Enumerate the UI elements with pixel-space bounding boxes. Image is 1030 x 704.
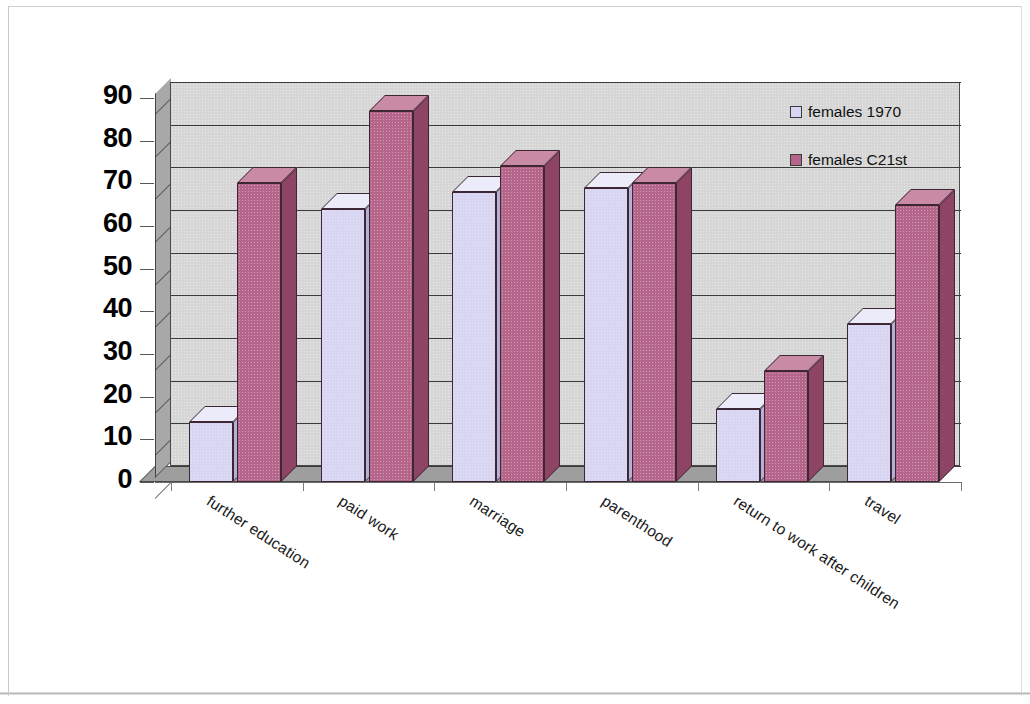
gridline [171, 82, 961, 83]
scan-grain [501, 167, 543, 481]
bar-females-c21st-travel[interactable] [895, 205, 939, 482]
bar-side-face [676, 167, 692, 482]
bar-females-c21st-return-to-work-after-children[interactable] [764, 371, 808, 482]
x-axis-tick-mark [698, 482, 699, 491]
scan-grain [238, 184, 280, 481]
bar-females-1970-travel[interactable] [847, 324, 891, 482]
bar-females-c21st-marriage[interactable] [500, 166, 544, 482]
x-axis-tick-mark [829, 482, 830, 491]
x-axis-tick-mark [303, 482, 304, 491]
scan-grain [848, 325, 890, 481]
y-tick-value: 90 [76, 82, 132, 109]
bar-females-1970-paid-work[interactable] [321, 209, 365, 482]
legend-item-females-1970[interactable]: females 1970 [790, 103, 901, 121]
x-axis-tick-mark [434, 482, 435, 491]
y-axis-tick-mark [140, 482, 154, 483]
x-axis-tick-mark [566, 482, 567, 491]
bar-females-c21st-paid-work[interactable] [369, 111, 413, 482]
bar-females-c21st-parenthood[interactable] [632, 183, 676, 482]
bar-females-1970-further-education[interactable] [189, 422, 233, 482]
legend-label: females C21st [808, 151, 907, 169]
x-axis-label-paid-work: paid work [335, 492, 402, 544]
bar-side-face [281, 167, 297, 482]
bar-females-1970-return-to-work-after-children[interactable] [716, 409, 760, 482]
y-axis-tick-mark [140, 311, 154, 312]
scan-grain [765, 372, 807, 481]
scan-grain [322, 210, 364, 481]
scanned-page: 9080706050403020100 further educationpai… [0, 0, 1030, 704]
x-axis-label-marriage: marriage [467, 492, 529, 541]
scan-grain [896, 206, 938, 481]
scan-grain [190, 423, 232, 481]
x-axis-tick-mark [171, 482, 172, 491]
scan-grain [633, 184, 675, 481]
x-axis-line [155, 482, 961, 483]
bar-side-face [544, 150, 560, 482]
y-axis-tick-mark [140, 183, 154, 184]
gridline [171, 125, 961, 126]
bar-chart: 9080706050403020100 further educationpai… [0, 0, 1030, 704]
y-axis-tick-mark [140, 98, 154, 99]
bar-side-face [939, 189, 955, 482]
bar-side-face [808, 355, 824, 482]
gridline-depth-connector [155, 482, 171, 499]
legend-swatch-icon [790, 154, 802, 166]
y-tick-value: 10 [76, 423, 132, 450]
y-tick-value: 0 [76, 466, 132, 493]
y-axis-tick-mark [140, 397, 154, 398]
plot-left-wall [155, 78, 171, 478]
scan-grain [453, 193, 495, 481]
y-tick-value: 70 [76, 167, 132, 194]
legend-swatch-icon [790, 106, 802, 118]
y-tick-value: 80 [76, 125, 132, 152]
y-tick-value: 30 [76, 338, 132, 365]
scan-grain [717, 410, 759, 481]
legend-item-females-c21st[interactable]: females C21st [790, 151, 907, 169]
y-axis-tick-mark [140, 269, 154, 270]
x-axis-label-parenthood: parenthood [598, 492, 675, 551]
scan-grain [370, 112, 412, 481]
y-tick-value: 40 [76, 295, 132, 322]
legend-label: females 1970 [808, 103, 901, 121]
x-axis-label-travel: travel [862, 492, 905, 528]
y-axis-tick-mark [140, 226, 154, 227]
x-axis-label-further-education: further education [203, 492, 313, 572]
bar-side-face [413, 95, 429, 482]
bar-females-c21st-further-education[interactable] [237, 183, 281, 482]
bar-females-1970-marriage[interactable] [452, 192, 496, 482]
y-tick-value: 20 [76, 381, 132, 408]
y-axis-tick-mark [140, 141, 154, 142]
y-tick-value: 50 [76, 253, 132, 280]
x-axis-tick-mark [961, 482, 962, 491]
scan-grain [585, 189, 627, 481]
y-axis-tick-mark [140, 354, 154, 355]
y-tick-value: 60 [76, 210, 132, 237]
y-axis-tick-mark [140, 439, 154, 440]
bar-females-1970-parenthood[interactable] [584, 188, 628, 482]
